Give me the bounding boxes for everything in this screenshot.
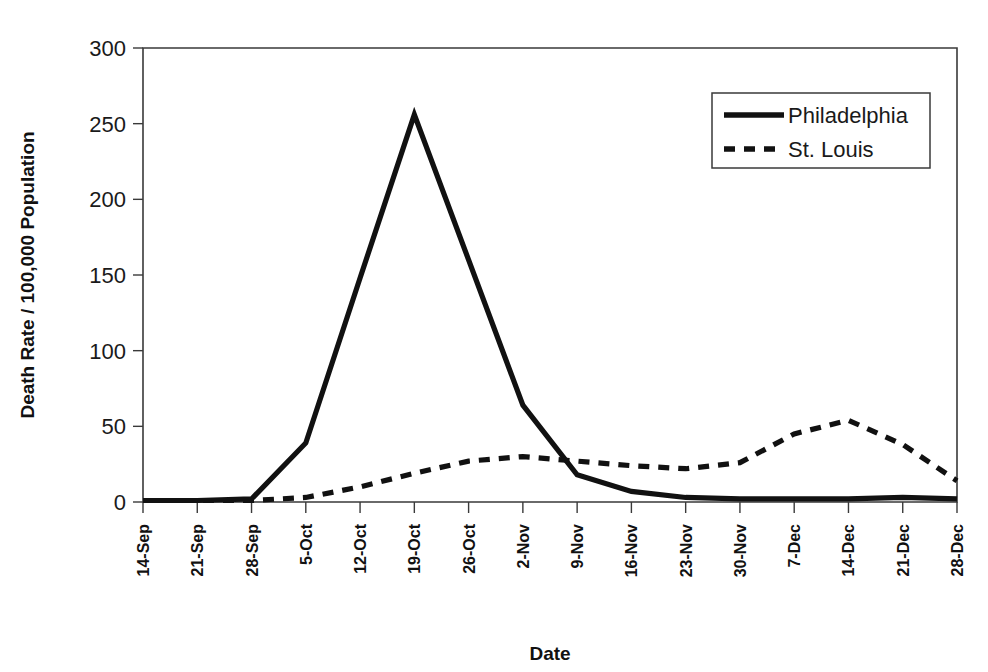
chart-legend: PhiladelphiaSt. Louis [712, 93, 930, 168]
legend-label-st-louis: St. Louis [788, 137, 874, 162]
y-axis-title: Death Rate / 100,000 Population [17, 131, 38, 418]
x-tick-label: 19-Oct [406, 523, 423, 573]
y-tick-label: 250 [89, 112, 126, 137]
y-tick-label: 150 [89, 263, 126, 288]
x-tick-label: 23-Nov [678, 524, 695, 577]
y-tick-label: 0 [114, 490, 126, 515]
legend-label-philadelphia: Philadelphia [788, 103, 909, 128]
y-tick-label: 50 [102, 414, 126, 439]
x-tick-label: 9-Nov [569, 524, 586, 569]
x-tick-label: 12-Oct [352, 523, 369, 573]
chart-container: Death Rate / 100,000 Population Date 050… [0, 0, 988, 672]
x-tick-label: 21-Sep [189, 524, 206, 577]
x-axis-title: Date [529, 643, 570, 664]
y-tick-label: 200 [89, 187, 126, 212]
x-tick-label: 16-Nov [623, 524, 640, 577]
x-tick-label: 28-Sep [244, 524, 261, 577]
y-tick-label: 300 [89, 36, 126, 61]
x-tick-label: 14-Sep [135, 524, 152, 577]
y-tick-label: 100 [89, 339, 126, 364]
x-tick-label: 14-Dec [840, 524, 857, 577]
x-tick-label: 28-Dec [949, 524, 966, 577]
line-chart: Death Rate / 100,000 Population Date 050… [0, 0, 988, 672]
x-tick-label: 7-Dec [786, 524, 803, 568]
x-tick-label: 30-Nov [732, 524, 749, 577]
x-tick-label: 2-Nov [515, 524, 532, 569]
x-tick-label: 26-Oct [461, 523, 478, 573]
x-tick-label: 5-Oct [298, 523, 315, 565]
x-tick-label: 21-Dec [895, 524, 912, 577]
